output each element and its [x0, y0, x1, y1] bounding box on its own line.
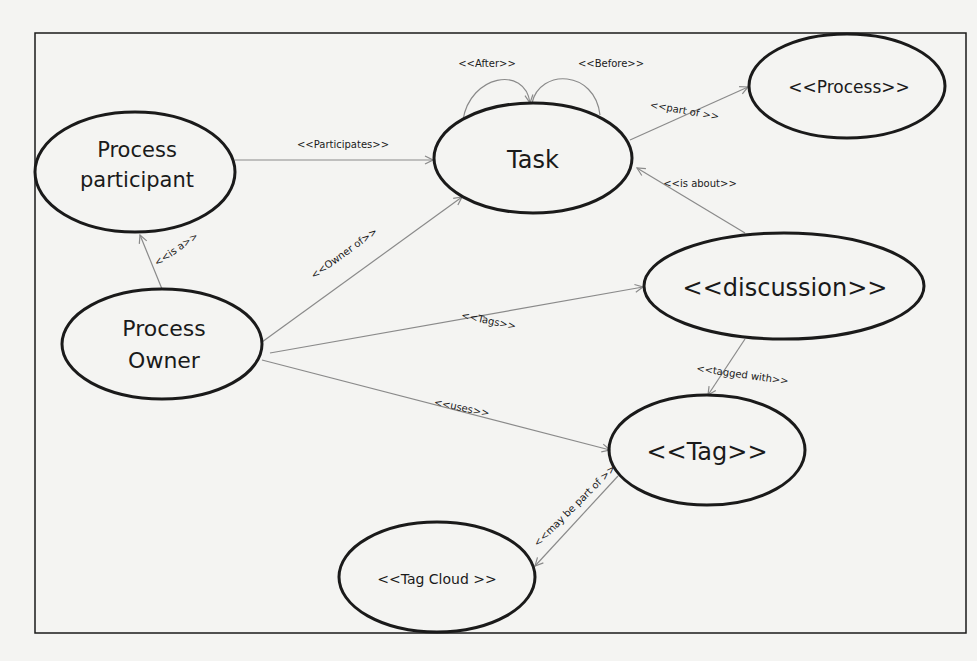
edge-label-before: <<Before>>: [578, 58, 644, 69]
edge-label-part-of: <<part of >>: [649, 99, 720, 122]
node-label-discussion: <<discussion>>: [683, 274, 888, 302]
edge-label-may-be-part-of: <<may be part of >>: [532, 463, 618, 549]
node-label-tag: <<Tag>>: [646, 438, 767, 466]
edge-label-owner-of: <<Owner of>>: [309, 226, 379, 281]
use-case-diagram: Process participant Task <<Process>> Pro…: [0, 0, 977, 661]
node-label-process: <<Process>>: [788, 77, 909, 97]
edge-label-is-a: <<is a>>: [152, 230, 200, 268]
node-label-process-owner-2: Owner: [128, 348, 201, 373]
edge-label-is-about: <<is about>>: [663, 178, 737, 189]
node-label-task: Task: [506, 146, 559, 174]
edge-label-uses: <<uses>>: [433, 396, 490, 418]
edge-owner-of: [262, 197, 462, 342]
edge-label-tags: <<Tags>>: [460, 309, 517, 331]
edge-may-be-part-of: [535, 476, 618, 566]
node-label-process-participant-2: participant: [80, 168, 194, 192]
node-label-process-owner-1: Process: [122, 316, 205, 341]
node-process-owner: [62, 289, 262, 399]
edge-label-participates: <<Participates>>: [297, 139, 389, 150]
edge-label-tagged-with: <<tagged with>>: [696, 363, 790, 387]
edge-tags: [270, 287, 643, 353]
edge-before: [532, 79, 600, 115]
edge-label-after: <<After>>: [458, 58, 516, 69]
node-label-process-participant-1: Process: [97, 138, 177, 162]
node-label-tag-cloud: <<Tag Cloud >>: [377, 571, 497, 587]
